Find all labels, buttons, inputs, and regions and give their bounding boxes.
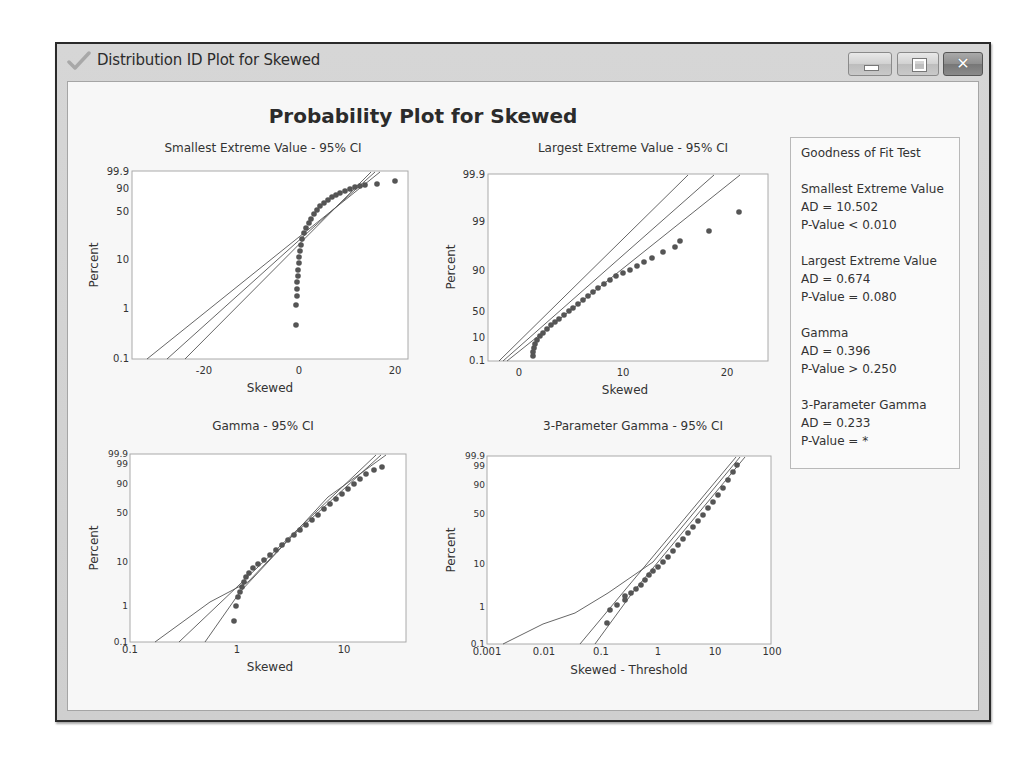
gof-ad-value: AD = 0.396 — [801, 342, 949, 360]
svg-text:10: 10 — [116, 254, 129, 265]
svg-text:1: 1 — [655, 646, 661, 657]
y-axis: 99.99990 50100.1 — [463, 169, 485, 366]
svg-text:50: 50 — [472, 306, 485, 317]
svg-text:-20: -20 — [196, 365, 212, 376]
gof-test-largest-extreme-value: Largest Extreme Value AD = 0.674 P-Value… — [801, 252, 949, 306]
x-axis: -20020 — [196, 365, 402, 376]
gof-p-value: P-Value < 0.010 — [801, 216, 949, 234]
gof-test-name: Gamma — [801, 324, 949, 342]
svg-text:10: 10 — [472, 332, 485, 343]
chart-title: Gamma - 95% CI — [212, 419, 314, 433]
gof-ad-value: AD = 0.674 — [801, 270, 949, 288]
close-button[interactable]: ✕ — [943, 52, 983, 76]
svg-text:90: 90 — [474, 480, 486, 490]
y-axis: 99.99990 501010.1 — [108, 449, 128, 647]
checkmark-icon — [67, 50, 91, 72]
app-window: Distribution ID Plot for Skewed ✕ Probab… — [55, 42, 991, 722]
svg-text:10: 10 — [617, 367, 630, 378]
chart-title: 3-Parameter Gamma - 95% CI — [543, 419, 723, 433]
gof-ad-value: AD = 0.233 — [801, 414, 949, 432]
svg-text:99: 99 — [474, 461, 486, 471]
gof-test-name: Smallest Extreme Value — [801, 180, 949, 198]
maximize-icon — [913, 59, 926, 71]
plot-area — [488, 174, 768, 361]
title-bar[interactable]: Distribution ID Plot for Skewed ✕ — [57, 44, 989, 78]
minimize-icon — [864, 65, 879, 71]
gof-p-value: P-Value = 0.080 — [801, 288, 949, 306]
plot-area — [130, 454, 406, 642]
svg-text:10: 10 — [117, 557, 129, 567]
x-axis-label: Skewed — [602, 383, 648, 394]
svg-text:0.1: 0.1 — [593, 646, 609, 657]
x-axis: 01020 — [516, 367, 734, 378]
svg-text:99.9: 99.9 — [107, 166, 129, 177]
maximize-button[interactable] — [897, 52, 939, 76]
svg-text:50: 50 — [117, 508, 129, 518]
svg-text:0.1: 0.1 — [122, 644, 138, 655]
svg-text:0.1: 0.1 — [469, 355, 485, 366]
svg-text:99: 99 — [472, 216, 485, 227]
svg-text:0.001: 0.001 — [473, 646, 502, 657]
gof-test-smallest-extreme-value: Smallest Extreme Value AD = 10.502 P-Val… — [801, 180, 949, 234]
minimize-button[interactable] — [848, 52, 892, 76]
gof-p-value: P-Value = * — [801, 432, 949, 450]
gof-p-value: P-Value > 0.250 — [801, 360, 949, 378]
svg-text:99.9: 99.9 — [108, 449, 128, 459]
svg-text:99.9: 99.9 — [463, 169, 485, 180]
svg-text:0.1: 0.1 — [113, 353, 129, 364]
window-title: Distribution ID Plot for Skewed — [97, 51, 320, 69]
goodness-of-fit-panel: Goodness of Fit Test Smallest Extreme Va… — [790, 137, 960, 469]
svg-text:0.01: 0.01 — [533, 646, 555, 657]
x-axis-label: Skewed — [247, 660, 293, 674]
x-axis: 0.1110 — [122, 644, 350, 655]
svg-text:20: 20 — [721, 367, 734, 378]
page-title: Probability Plot for Skewed — [68, 104, 778, 128]
svg-text:20: 20 — [389, 365, 402, 376]
svg-text:50: 50 — [474, 509, 486, 519]
y-axis-label: Percent — [87, 525, 101, 570]
svg-text:100: 100 — [762, 646, 781, 657]
graph-area: Probability Plot for Skewed Smallest Ext… — [67, 81, 979, 711]
svg-text:10: 10 — [338, 644, 351, 655]
y-axis-label: Percent — [444, 244, 458, 289]
chart-title: Largest Extreme Value - 95% CI — [538, 141, 728, 155]
x-axis: 0.0010.010.1 110100 — [473, 646, 782, 657]
chart-3-parameter-gamma: 3-Parameter Gamma - 95% CI 99.99990 5010… — [433, 412, 788, 687]
y-axis-label: Percent — [444, 527, 458, 572]
gof-test-gamma: Gamma AD = 0.396 P-Value > 0.250 — [801, 324, 949, 378]
svg-text:90: 90 — [116, 183, 129, 194]
gof-title: Goodness of Fit Test — [801, 144, 949, 162]
chart-largest-extreme-value: Largest Extreme Value - 95% CI 99.99990 … — [433, 134, 788, 394]
gof-test-3-parameter-gamma: 3-Parameter Gamma AD = 0.233 P-Value = * — [801, 396, 949, 450]
x-axis-label: Skewed — [247, 381, 293, 394]
svg-text:0: 0 — [516, 367, 522, 378]
svg-text:10: 10 — [474, 559, 486, 569]
svg-text:99: 99 — [117, 459, 129, 469]
svg-text:50: 50 — [116, 206, 129, 217]
svg-text:99.9: 99.9 — [465, 451, 485, 461]
svg-text:0: 0 — [296, 365, 302, 376]
plot-area — [487, 456, 771, 644]
x-axis-label: Skewed - Threshold — [570, 663, 687, 677]
svg-text:1: 1 — [122, 601, 128, 611]
svg-text:1: 1 — [234, 644, 240, 655]
y-axis: 99.99050 1010.1 — [107, 166, 129, 364]
gof-test-name: Largest Extreme Value — [801, 252, 949, 270]
gof-test-name: 3-Parameter Gamma — [801, 396, 949, 414]
svg-text:1: 1 — [123, 303, 129, 314]
gof-ad-value: AD = 10.502 — [801, 198, 949, 216]
chart-smallest-extreme-value: Smallest Extreme Value - 95% CI 99.99050… — [78, 134, 428, 394]
svg-text:90: 90 — [117, 479, 129, 489]
svg-text:1: 1 — [479, 602, 485, 612]
chart-gamma: Gamma - 95% CI 99.99990 501010.1 0.1110 … — [78, 412, 428, 682]
chart-title: Smallest Extreme Value - 95% CI — [164, 141, 361, 155]
svg-text:90: 90 — [472, 265, 485, 276]
y-axis-label: Percent — [87, 242, 101, 287]
svg-text:10: 10 — [709, 646, 722, 657]
plot-area — [132, 171, 408, 359]
y-axis: 99.99990 501010.1 — [465, 451, 485, 649]
close-icon: ✕ — [944, 54, 982, 73]
